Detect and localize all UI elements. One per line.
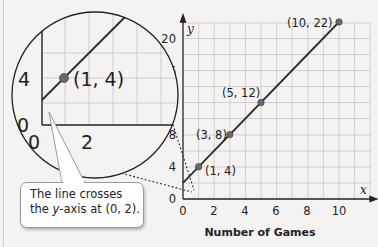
callout-pointer-cover [44,178,84,190]
x-tick-labels: 0 2 4 6 8 10 [179,204,346,218]
inset-x-tick-0: 0 [28,131,40,153]
inset-point-label: (1, 4) [73,68,124,90]
inset-point [60,74,69,83]
magnifier-inset: (1, 4) 4 0 0 2 [12,0,180,178]
svg-text:4: 4 [169,160,176,174]
svg-text:0: 0 [179,204,186,218]
svg-text:6: 6 [272,204,279,218]
svg-text:2: 2 [210,204,217,218]
label-point-3-8: (3, 8) [196,128,227,142]
point-3-8 [227,131,233,137]
x-axis-title: Number of Games [204,226,316,239]
inset-x-tick-2: 2 [81,131,93,153]
svg-text:4: 4 [241,204,248,218]
svg-text:0: 0 [169,192,176,206]
svg-text:10: 10 [332,204,347,218]
svg-text:8: 8 [303,204,310,218]
y-axis-label: y [186,22,194,36]
svg-text:20: 20 [161,32,176,46]
point-1-4 [195,164,201,170]
label-point-10-22: (10, 22) [287,16,333,30]
figure: (1, 4) (3, 8) (5, 12) (10, 22) 0 4 8 12 … [0,0,378,247]
label-point-5-12: (5, 12) [222,86,260,100]
x-axis-label: x [360,183,367,197]
y-axis-arrow-icon [181,15,186,22]
x-axis-arrow-icon [370,197,377,202]
point-10-22 [336,19,342,25]
inset-y-tick-4: 4 [18,68,30,90]
callout-line-2: the y-axis at (0, 2). [30,202,143,217]
point-5-12 [258,99,264,105]
label-point-1-4: (1, 4) [205,164,236,178]
